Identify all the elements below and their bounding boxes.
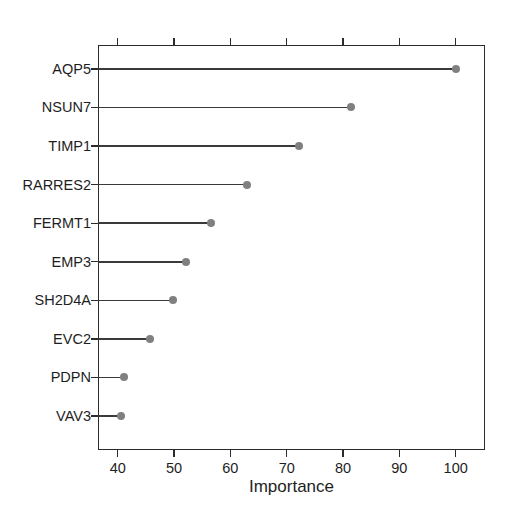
x-axis-tick-top: [286, 38, 287, 45]
y-axis-tick: [91, 300, 98, 301]
y-axis-tick: [91, 223, 98, 224]
x-axis-tick-label: 60: [207, 459, 253, 477]
x-axis-tick-label: 90: [376, 459, 422, 477]
y-axis-tick: [91, 107, 98, 108]
data-point-sh2d4a: [169, 296, 177, 304]
y-axis-tick: [91, 338, 98, 339]
y-axis-tick: [91, 184, 98, 185]
x-axis-title: Importance: [98, 477, 485, 497]
x-axis-tick-bottom: [286, 450, 287, 457]
stem-fermt1: [98, 222, 211, 224]
x-axis-tick-label: 100: [433, 459, 479, 477]
stem-evc2: [98, 338, 150, 340]
category-label-rarres2: RARRES2: [0, 178, 91, 192]
x-axis-tick-bottom: [117, 450, 118, 457]
data-point-evc2: [146, 335, 154, 343]
x-axis-tick-label: 70: [264, 459, 310, 477]
x-axis-tick-bottom: [399, 450, 400, 457]
x-axis-tick-bottom: [455, 450, 456, 457]
stem-emp3: [98, 261, 186, 263]
category-label-pdpn: PDPN: [0, 370, 91, 384]
y-axis-tick: [91, 415, 98, 416]
x-axis-tick-top: [117, 38, 118, 45]
x-axis-tick-top: [230, 38, 231, 45]
data-point-nsun7: [347, 103, 355, 111]
category-label-nsun7: NSUN7: [0, 100, 91, 114]
x-axis-tick-top: [455, 38, 456, 45]
x-axis-tick-bottom: [230, 450, 231, 457]
x-axis-tick-bottom: [342, 450, 343, 457]
data-point-rarres2: [243, 181, 251, 189]
category-label-evc2: EVC2: [0, 332, 91, 346]
x-axis-tick-top: [173, 38, 174, 45]
x-axis-tick-label: 40: [95, 459, 141, 477]
x-axis-tick-label: 50: [151, 459, 197, 477]
category-label-vav3: VAV3: [0, 409, 91, 423]
stem-rarres2: [98, 184, 247, 186]
y-axis-tick: [91, 145, 98, 146]
data-point-aqp5: [452, 65, 460, 73]
category-label-aqp5: AQP5: [0, 62, 91, 76]
x-axis-tick-top: [399, 38, 400, 45]
data-point-fermt1: [207, 219, 215, 227]
stem-sh2d4a: [98, 300, 173, 302]
stem-nsun7: [98, 107, 351, 109]
data-point-emp3: [182, 258, 190, 266]
data-point-pdpn: [120, 373, 128, 381]
data-point-timp1: [295, 142, 303, 150]
y-axis-tick: [91, 377, 98, 378]
x-axis-tick-label: 80: [320, 459, 366, 477]
category-label-sh2d4a: SH2D4A: [0, 293, 91, 307]
y-axis-tick: [91, 261, 98, 262]
importance-lollipop-chart: AQP5NSUN7TIMP1RARRES2FERMT1EMP3SH2D4AEVC…: [0, 0, 509, 523]
data-point-vav3: [117, 412, 125, 420]
x-axis-tick-top: [342, 38, 343, 45]
category-label-timp1: TIMP1: [0, 139, 91, 153]
category-label-fermt1: FERMT1: [0, 216, 91, 230]
y-axis-tick: [91, 68, 98, 69]
x-axis-tick-bottom: [173, 450, 174, 457]
stem-aqp5: [98, 68, 456, 70]
category-label-emp3: EMP3: [0, 255, 91, 269]
stem-timp1: [98, 145, 299, 147]
